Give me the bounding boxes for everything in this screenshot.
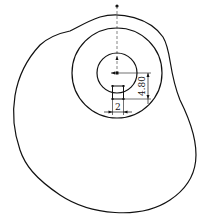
vertical-dimension-label: 4.80	[137, 76, 147, 96]
cad-sketch-canvas: 4.80 2	[0, 0, 209, 222]
dim-arrow-right-icon	[109, 111, 113, 114]
horizontal-dimension[interactable]: 2	[104, 99, 132, 115]
vertical-dimension[interactable]: 4.80	[137, 73, 150, 104]
horizontal-dimension-label: 2	[115, 102, 121, 112]
outer-profile[interactable]	[14, 15, 196, 213]
dim-arrow-left-icon	[124, 111, 128, 114]
arrow-up-icon	[116, 56, 119, 60]
square-corner-tr	[123, 85, 125, 87]
square-corner-tl	[112, 85, 114, 87]
arrow-left-icon	[111, 72, 115, 75]
